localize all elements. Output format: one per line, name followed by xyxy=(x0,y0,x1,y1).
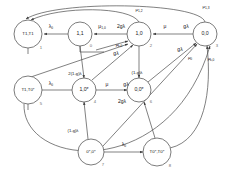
node-label-n8: T0*,T0* xyxy=(150,149,165,154)
node-label-n4: 1,0* xyxy=(79,86,88,92)
edge-n6-to-n3 xyxy=(148,43,196,82)
node-n4[interactable]: 1,0* 4 xyxy=(72,78,97,104)
node-n0[interactable]: 1,1 0 xyxy=(68,22,93,48)
edge-label-glambda-diag1: gλ xyxy=(113,50,119,56)
node-n6[interactable]: 0,0* 6 xyxy=(127,78,153,104)
node-n2[interactable]: 1,0 2 xyxy=(127,22,153,48)
edge-label-2glambda-top: 2gλ xyxy=(117,23,126,29)
node-n1[interactable]: T1,T1 1 xyxy=(14,20,43,50)
edge-label-muk0-right: μk,0 xyxy=(208,56,215,62)
edge-label-2-1mg-lambda: 2(1-g)λ xyxy=(68,71,82,76)
node-label-n2: 1,0 xyxy=(135,30,142,36)
node-label-n3: 0,0 xyxy=(201,30,208,36)
edge-label-mu0-right: μ0 xyxy=(188,55,192,61)
node-n8[interactable]: T0*,T0* 8 xyxy=(143,138,172,168)
edge-n8-right-curve xyxy=(170,46,208,148)
diagram-canvas: T1,T1 1 1,1 0 1,0 2 0,0 3 T1,T0* 5 xyxy=(0,0,232,185)
edge-label-glambda-top: gλ xyxy=(183,23,189,29)
node-index-n7: 7 xyxy=(102,162,105,167)
node-n5[interactable]: T1,T0* 5 xyxy=(14,76,43,106)
node-index-n5: 5 xyxy=(40,101,43,106)
node-index-n0: 0 xyxy=(90,43,93,48)
node-index-n2: 2 xyxy=(150,43,153,48)
edge-label-mu12: μ1,2 xyxy=(136,7,143,13)
edge-label-mu-mid: μ xyxy=(106,81,109,87)
edge-label-lambda0-mid: λ0 xyxy=(49,80,54,87)
edge-label-1mg-lambda-mid: (1-g)λ xyxy=(132,70,144,75)
edge-label-glambda-mid: gλ xyxy=(123,81,129,87)
node-label-n5: T1,T0* xyxy=(21,87,34,92)
edge-label-lambda0-top: λ0 xyxy=(49,23,54,30)
edge-n7-to-n4 xyxy=(84,102,88,139)
edge-label-2glambda-low: 2gλ xyxy=(118,98,127,104)
edge-label-mu13: μ1,3 xyxy=(203,4,210,10)
edge-label-mu10: μ1,0 xyxy=(98,23,106,30)
node-index-n4: 4 xyxy=(94,99,97,104)
node-label-n6: 0,0* xyxy=(134,86,143,92)
node-label-n7: 0*,0* xyxy=(86,149,96,154)
edge-label-mu-top: μ xyxy=(164,23,167,29)
edge-label-1mg-lambda-low: (1-g)λ xyxy=(68,128,80,133)
state-transition-diagram: T1,T1 1 1,1 0 1,0 2 0,0 3 T1,T0* 5 xyxy=(0,0,232,185)
node-n7[interactable]: 0*,0* 7 xyxy=(78,139,105,167)
edge-mu13-curve xyxy=(26,6,205,22)
node-label-n1: T1,T1 xyxy=(22,31,34,36)
edge-label-lambda0-bot: λ0 xyxy=(122,141,127,148)
node-label-n0: 1,1 xyxy=(76,30,83,36)
node-index-n1: 1 xyxy=(40,45,43,50)
node-index-n6: 6 xyxy=(150,99,153,104)
node-index-n8: 8 xyxy=(169,163,172,168)
node-index-n3: 3 xyxy=(216,43,219,48)
edge-label-glambda-right: gλ xyxy=(177,46,183,52)
